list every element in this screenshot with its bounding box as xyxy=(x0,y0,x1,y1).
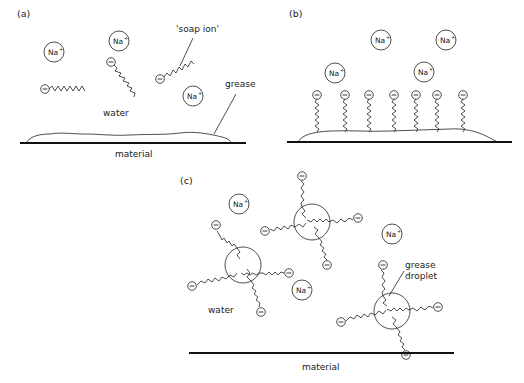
soap-ion xyxy=(412,91,421,132)
svg-text:+: + xyxy=(124,35,128,41)
water-label: water xyxy=(208,305,234,315)
material-label: material xyxy=(302,362,340,372)
sodium-ion: Na + xyxy=(229,194,249,214)
grease-droplet xyxy=(261,172,363,270)
svg-text:Na: Na xyxy=(418,68,428,77)
soap-ion-pointer xyxy=(180,38,193,66)
grease-pointer xyxy=(214,94,236,134)
svg-text:+: + xyxy=(397,228,401,234)
grease-droplet-label-line1: grease xyxy=(405,260,436,270)
svg-text:Na: Na xyxy=(113,37,123,46)
grease-layer xyxy=(298,129,498,142)
grease-droplet xyxy=(188,221,294,317)
sodium-ion: Na + xyxy=(183,86,203,106)
svg-text:+: + xyxy=(244,198,248,204)
svg-text:Na: Na xyxy=(233,200,243,209)
svg-text:Na: Na xyxy=(375,36,385,45)
soap-ion xyxy=(433,91,442,132)
svg-text:Na: Na xyxy=(187,92,197,101)
panel-b-label: (b) xyxy=(289,8,302,19)
soap-ion-label: 'soap ion' xyxy=(176,24,219,34)
material-label: material xyxy=(115,149,153,159)
svg-text:Na: Na xyxy=(440,36,450,45)
sodium-ion: Na + xyxy=(382,224,402,244)
svg-text:+: + xyxy=(307,284,311,290)
soap-ion xyxy=(313,91,322,132)
soap-ion xyxy=(41,85,85,94)
svg-text:+: + xyxy=(429,66,433,72)
svg-text:+: + xyxy=(386,34,390,40)
sodium-ion: Na + xyxy=(436,30,456,50)
svg-text:Na: Na xyxy=(48,48,58,57)
grease-droplet-label-line2: droplet xyxy=(405,271,437,281)
sodium-ion: Na + xyxy=(292,280,312,300)
soap-ion xyxy=(390,91,399,132)
soap-ion xyxy=(459,91,468,132)
svg-text:+: + xyxy=(59,46,63,52)
soap-ion xyxy=(107,58,135,97)
panel-c-label: (c) xyxy=(180,175,193,186)
sodium-ion: Na + xyxy=(325,63,345,83)
svg-text:Na: Na xyxy=(329,69,339,78)
panel-a: (a) Na + Na + Na + xyxy=(17,8,256,159)
water-label: water xyxy=(103,108,129,118)
grease-droplet-pointer xyxy=(389,271,404,296)
sodium-ion: Na + xyxy=(109,31,129,51)
soap-ion xyxy=(365,91,374,132)
svg-text:+: + xyxy=(198,90,202,96)
panel-a-label: (a) xyxy=(17,8,30,19)
svg-text:+: + xyxy=(451,34,455,40)
svg-text:Na: Na xyxy=(296,286,306,295)
grease-layer xyxy=(26,132,231,143)
panel-b: (b) Na + Na + Na + Na + xyxy=(287,8,512,142)
svg-text:Na: Na xyxy=(386,230,396,239)
sodium-ion: Na + xyxy=(414,62,434,82)
panel-c: (c) Na + Na + Na + xyxy=(180,172,454,372)
soap-action-diagram: (a) Na + Na + Na + xyxy=(0,0,524,383)
svg-text:+: + xyxy=(340,67,344,73)
sodium-ion: Na + xyxy=(44,42,64,62)
grease-label: grease xyxy=(225,79,256,89)
soap-ion xyxy=(341,91,350,132)
sodium-ion: Na + xyxy=(371,30,391,50)
soap-ion xyxy=(156,61,194,83)
